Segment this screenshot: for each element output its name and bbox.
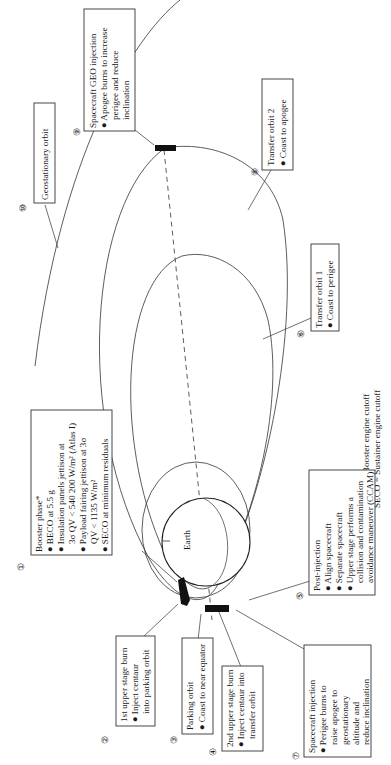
step-9-callout: Spacecraft GEO injection ● Apogee burns … bbox=[72, 9, 135, 136]
svg-text:inclination: inclination bbox=[121, 80, 131, 120]
svg-text:Spacecraft injection: Spacecraft injection bbox=[307, 679, 317, 753]
svg-text:● BECO at 5.5 g: ● BECO at 5.5 g bbox=[45, 490, 55, 552]
svg-text:⑥: ⑥ bbox=[296, 330, 306, 338]
svg-text:⑨: ⑨ bbox=[72, 128, 82, 136]
svg-text:Spacecraft GEO injection: Spacecraft GEO injection bbox=[88, 33, 98, 128]
svg-text:⑧: ⑧ bbox=[250, 168, 260, 176]
svg-text:transfer orbit: transfer orbit bbox=[247, 691, 257, 739]
svg-text:2nd upper stage burn: 2nd upper stage burn bbox=[225, 669, 235, 747]
svg-text:1st upper stage burn: 1st upper stage burn bbox=[119, 647, 129, 722]
step-8-callout: Transfer orbit 2 ● Coast to apogee ⑧ bbox=[250, 79, 293, 176]
step-10-callout: Geostationary orbit ⑩ bbox=[18, 103, 55, 212]
svg-text:⑦: ⑦ bbox=[291, 752, 301, 760]
svg-text:reduce inclination: reduce inclination bbox=[361, 679, 371, 745]
step-5-callout: Post-injection ● Align spacecraft ● Sepa… bbox=[295, 470, 375, 600]
svg-text:3σ QV < 540 200 W/m² (Atlas I): 3σ QV < 540 200 W/m² (Atlas I) bbox=[67, 423, 77, 544]
svg-text:perigee and reduce: perigee and reduce bbox=[110, 51, 120, 120]
earth-label: Earth bbox=[182, 530, 192, 550]
step-4-callout: 2nd upper stage burn ● Inject centaur in… bbox=[208, 666, 263, 756]
mission-diagram: Earth Geostationary orbit ⑩ Spacecraft G… bbox=[0, 0, 391, 765]
svg-text:● Coast to near equator: ● Coast to near equator bbox=[197, 644, 207, 730]
svg-text:● Insulation panels jettison a: ● Insulation panels jettison at bbox=[56, 443, 66, 552]
svg-text:into parking orbit: into parking orbit bbox=[141, 649, 151, 714]
svg-text:● Separate spacecraft: ● Separate spacecraft bbox=[334, 512, 344, 591]
step-7-callout: Spacecraft injection ● Perigee burns to … bbox=[291, 645, 371, 760]
svg-text:● SECO at minimum residuals: ● SECO at minimum residuals bbox=[100, 438, 110, 552]
svg-text:geostationary: geostationary bbox=[340, 695, 350, 745]
svg-text:Parking orbit: Parking orbit bbox=[185, 681, 195, 730]
svg-text:● Payload fairing jettison at: ● Payload fairing jettison at 3σ bbox=[78, 438, 88, 552]
svg-text:● Coast to apogee: ● Coast to apogee bbox=[278, 99, 288, 166]
svg-text:● Inject centaur: ● Inject centaur bbox=[130, 664, 140, 722]
svg-text:● Upper stage performs a: ● Upper stage performs a bbox=[345, 497, 355, 591]
svg-text:QV < 1135 W/m²: QV < 1135 W/m² bbox=[89, 480, 99, 544]
svg-text:● Perigee burns to: ● Perigee burns to bbox=[318, 685, 328, 753]
svg-text:②: ② bbox=[100, 736, 110, 744]
svg-text:raise apogee to: raise apogee to bbox=[329, 689, 339, 745]
step-2-callout: 1st upper stage burn ● Inject centaur in… bbox=[100, 636, 155, 744]
callout-arrows bbox=[45, 130, 311, 667]
svg-text:● Inject centaur into: ● Inject centaur into bbox=[236, 672, 246, 747]
svg-text:Post-injection: Post-injection bbox=[312, 540, 322, 591]
svg-text:Geostationary orbit: Geostationary orbit bbox=[40, 128, 50, 200]
svg-text:①: ① bbox=[16, 563, 26, 571]
svg-text:④: ④ bbox=[208, 748, 218, 756]
svg-text:③: ③ bbox=[169, 736, 179, 744]
svg-text:Booster phase*: Booster phase* bbox=[34, 495, 44, 552]
svg-text:collision and contamination: collision and contamination bbox=[355, 481, 365, 583]
apogee-burn-marker bbox=[155, 145, 176, 151]
svg-text:● Align spacecraft: ● Align spacecraft bbox=[323, 523, 333, 591]
step-6-callout: Transfer orbit 1 ● Coast to perigee ⑥ bbox=[296, 244, 339, 338]
step-3-callout: Parking orbit ● Coast to near equator ③ bbox=[169, 638, 213, 744]
svg-text:avoidance maneuver (CCAM): avoidance maneuver (CCAM) bbox=[365, 472, 375, 583]
earth: Earth bbox=[162, 498, 250, 586]
perigee-burn-marker bbox=[205, 605, 229, 612]
svg-text:● Coast to perigee: ● Coast to perigee bbox=[325, 260, 335, 328]
svg-text:⑩: ⑩ bbox=[18, 204, 28, 212]
svg-text:⑤: ⑤ bbox=[295, 592, 305, 600]
svg-text:altitude and: altitude and bbox=[351, 701, 361, 745]
svg-text:Transfer orbit 1: Transfer orbit 1 bbox=[314, 270, 324, 328]
step-1-callout: Booster phase* ● BECO at 5.5 g ● Insulat… bbox=[16, 410, 112, 571]
svg-text:● Apogee burns to increase: ● Apogee burns to increase bbox=[99, 28, 109, 128]
svg-text:Transfer orbit 2: Transfer orbit 2 bbox=[266, 108, 276, 166]
